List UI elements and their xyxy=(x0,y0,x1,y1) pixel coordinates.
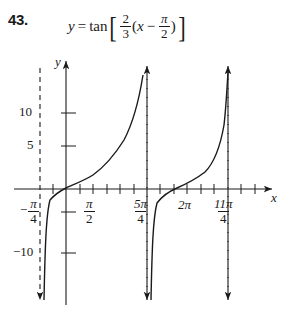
y-tick-label-5: 5 xyxy=(27,137,34,153)
y-tick-label-neg10: −10 xyxy=(13,244,33,260)
y-tick-label-10: 10 xyxy=(19,104,32,120)
x-tick-label-5pi-4: 5π 4 xyxy=(131,197,150,225)
x-tick-label-pi-2: π 2 xyxy=(83,197,96,225)
asymptote-lines xyxy=(40,66,228,300)
x-axis-label: x xyxy=(271,190,277,206)
tangent-branch-2 xyxy=(151,72,228,300)
x-tick-label-11pi-4: 11π 4 xyxy=(211,197,236,225)
x-tick-label-neg-pi-4: − π 4 xyxy=(20,197,40,225)
y-axis-label: y xyxy=(55,54,61,70)
tangent-graph-plot xyxy=(0,0,291,313)
figure-container: 43. y = tan [ 2 3 ( x − π 2 ) ] xyxy=(0,0,291,313)
y-axis-ticks xyxy=(61,113,76,253)
x-tick-label-2pi: 2π xyxy=(178,197,191,213)
